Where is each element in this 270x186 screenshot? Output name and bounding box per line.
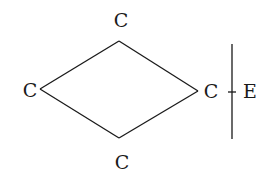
atom-label-e: E xyxy=(243,80,257,102)
atom-label-top: C xyxy=(114,9,129,31)
atom-label-bottom: C xyxy=(115,151,130,173)
atom-label-left: C xyxy=(23,79,38,101)
bond-bottom-right xyxy=(119,91,198,138)
bond-left-bottom xyxy=(40,89,119,138)
bond-right-top xyxy=(119,41,198,91)
bond-top-left xyxy=(40,41,119,89)
atom-label-right: C xyxy=(204,80,219,102)
ring-diagram: C C C C E xyxy=(0,0,270,186)
